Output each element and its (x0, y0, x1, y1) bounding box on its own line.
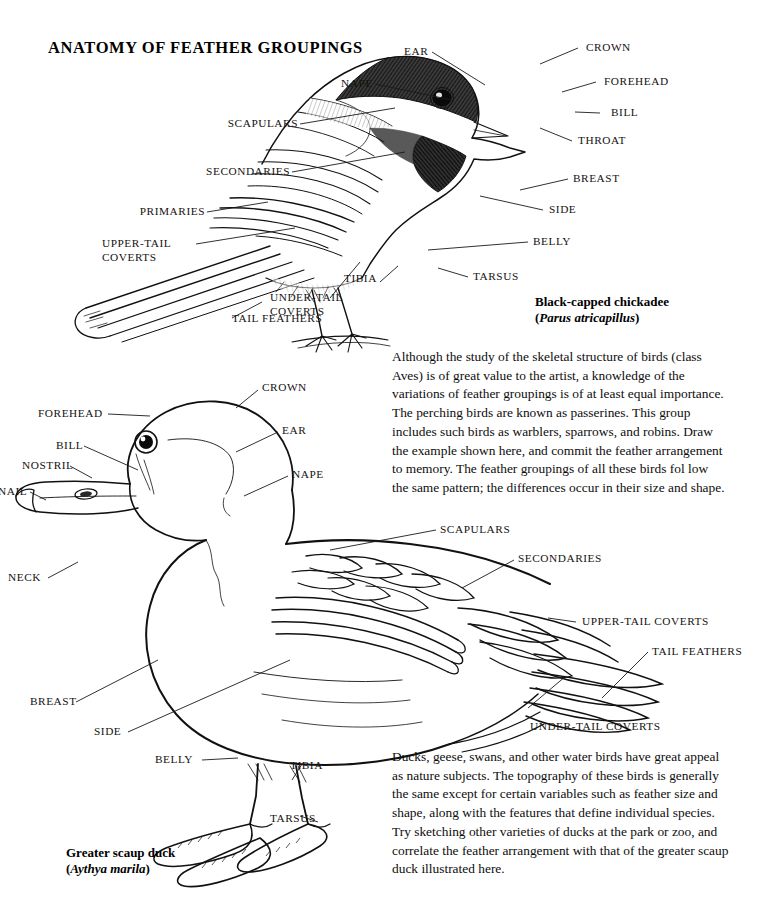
duck-label-scapulars: SCAPULARS (440, 523, 510, 537)
chickadee-label-side: SIDE (549, 203, 576, 217)
duck-label-tarsus: TARSUS (270, 812, 316, 826)
duck-scientific-name: Aythya marila (70, 861, 145, 876)
chickadee-label-throat: THROAT (578, 134, 626, 148)
duck-label-breast: BREAST (30, 695, 77, 709)
duck-label-nape: NAPE (292, 468, 324, 482)
duck-label-belly: BELLY (155, 753, 193, 767)
anatomy-plate-page: ANATOMY OF FEATHER GROUPINGS (0, 0, 776, 910)
passerine-paragraph: Although the study of the skeletal struc… (392, 348, 726, 498)
duck-label-upper-tail-coverts: UPPER-TAIL COVERTS (582, 615, 709, 629)
paren-close: ) (146, 861, 150, 876)
chickadee-common-name: Black-capped chickadee (535, 294, 669, 310)
chickadee-label-upper-tail-coverts: UPPER-TAIL COVERTS (102, 237, 194, 264)
duck-label-tibia: TIBIA (290, 759, 323, 773)
duck-label-forehead: FOREHEAD (38, 407, 103, 421)
page-title: ANATOMY OF FEATHER GROUPINGS (48, 38, 363, 58)
duck-label-secondaries: SECONDARIES (518, 552, 602, 566)
chickadee-caption: Black-capped chickadee (Parus atricapill… (535, 294, 669, 326)
chickadee-scientific-name: Parus atricapillus (539, 310, 635, 325)
duck-label-bill: BILL (56, 439, 83, 453)
duck-label-ear: EAR (282, 424, 306, 438)
paren-close: ) (635, 310, 639, 325)
chickadee-label-crown: CROWN (586, 41, 631, 55)
chickadee-label-tibia: TIBIA (344, 272, 377, 286)
chickadee-label-primaries: PRIMARIES (125, 205, 205, 219)
duck-caption: Greater scaup duck (Aythya marila) (66, 845, 175, 877)
chickadee-scientific-name-line: (Parus atricapillus) (535, 310, 669, 326)
chickadee-label-ear: EAR (404, 45, 428, 59)
chickadee-label-breast: BREAST (573, 172, 620, 186)
chickadee-label-nape: NAPE (341, 77, 373, 91)
waterbird-paragraph: Ducks, geese, swans, and other water bir… (392, 748, 730, 879)
duck-label-nail: NAIL (0, 485, 27, 499)
chickadee-label-scapulars: SCAPULARS (158, 117, 298, 131)
duck-scientific-name-line: (Aythya marila) (66, 861, 175, 877)
chickadee-label-secondaries: SECONDARIES (150, 165, 290, 179)
duck-label-crown: CROWN (262, 381, 307, 395)
duck-label-under-tail-coverts: UNDER-TAIL COVERTS (530, 720, 661, 734)
duck-label-tail-feathers: TAIL FEATHERS (652, 645, 742, 659)
chickadee-label-forehead: FOREHEAD (604, 75, 669, 89)
chickadee-label-tarsus: TARSUS (473, 270, 519, 284)
duck-label-side: SIDE (94, 725, 121, 739)
chickadee-label-bill: BILL (611, 106, 638, 120)
chickadee-label-tail-feathers: TAIL FEATHERS (232, 312, 322, 326)
chickadee-label-belly: BELLY (533, 235, 571, 249)
duck-common-name: Greater scaup duck (66, 845, 175, 861)
duck-label-nostril: NOSTRIL (22, 459, 74, 473)
duck-label-neck: NECK (8, 571, 41, 585)
